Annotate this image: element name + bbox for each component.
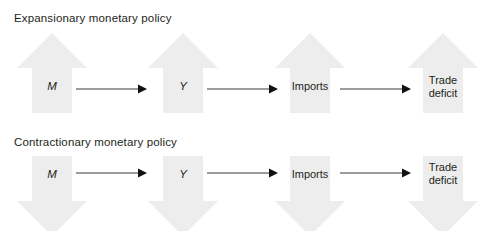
node-expansionary-trade-deficit: Trade deficit [405,30,481,115]
connector-expansionary-1 [76,83,148,95]
node-contractionary-imports: Imports [272,154,348,231]
node-contractionary-trade-deficit: Trade deficit [405,154,481,231]
arrow-right-icon [76,83,148,95]
up-block-arrow-icon [14,30,90,115]
diagram-row-contractionary: Contractionary monetary policy M Y [0,120,487,231]
connector-contractionary-3 [340,167,412,179]
diagram-row-expansionary: Expansionary monetary policy M Y [0,0,487,120]
up-block-arrow-icon [405,30,481,115]
node-label-imports: Imports [272,168,348,181]
arrow-right-icon [207,167,279,179]
node-contractionary-output: Y [145,154,221,231]
node-label-imports: Imports [272,80,348,93]
down-block-arrow-icon [14,154,90,231]
arrow-right-icon [340,83,412,95]
down-block-arrow-icon [272,154,348,231]
arrow-right-icon [76,167,148,179]
arrow-right-icon [207,83,279,95]
node-expansionary-money-supply: M [14,30,90,115]
arrow-right-icon [340,167,412,179]
row-title-expansionary: Expansionary monetary policy [14,12,172,24]
diagram-canvas: Expansionary monetary policy M Y [0,0,487,231]
row-title-contractionary: Contractionary monetary policy [14,136,177,148]
up-block-arrow-icon [145,30,221,115]
node-label-trade-deficit: Trade deficit [405,74,481,99]
connector-contractionary-1 [76,167,148,179]
connector-contractionary-2 [207,167,279,179]
connector-expansionary-3 [340,83,412,95]
node-expansionary-output: Y [145,30,221,115]
node-contractionary-money-supply: M [14,154,90,231]
down-block-arrow-icon [145,154,221,231]
node-label-trade-deficit: Trade deficit [405,161,481,186]
node-expansionary-imports: Imports [272,30,348,115]
connector-expansionary-2 [207,83,279,95]
up-block-arrow-icon [272,30,348,115]
